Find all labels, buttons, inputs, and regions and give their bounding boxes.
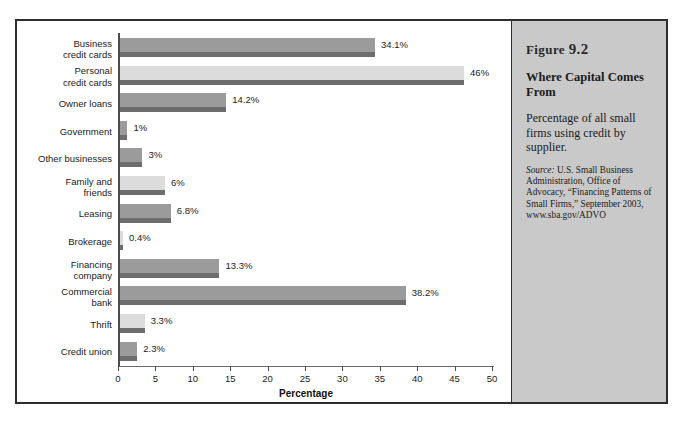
bar-face (120, 66, 464, 80)
category-label: Personal credit cards (20, 65, 112, 87)
bar-row: Business credit cards34.1% (17, 35, 511, 63)
x-axis-tick-label: 50 (487, 373, 498, 384)
bar-face (120, 314, 145, 328)
bar-value-label: 14.2% (232, 94, 259, 105)
bar: 3.3% (120, 314, 145, 335)
x-axis-tick-label: 5 (153, 373, 158, 384)
x-axis-title: Percentage (118, 388, 494, 399)
bar-face (120, 231, 123, 245)
bar-shadow (120, 218, 171, 223)
bar-shadow (120, 52, 375, 57)
x-axis-tick (342, 366, 343, 371)
bar-shadow (120, 107, 226, 112)
bar-value-label: 34.1% (381, 39, 408, 50)
bar-row: Thrift3.3% (17, 311, 511, 339)
bar-value-label: 3% (148, 149, 162, 160)
x-axis-tick (492, 366, 493, 371)
bar: 6.8% (120, 204, 171, 225)
x-axis-tick (305, 366, 306, 371)
bar-value-label: 38.2% (412, 287, 439, 298)
figure-number-label: Figure (526, 42, 565, 57)
bar-face (120, 93, 226, 107)
bar: 3% (120, 148, 142, 169)
bar-row: Government1% (17, 118, 511, 146)
x-axis-tick (455, 366, 456, 371)
category-label: Owner loans (20, 98, 112, 109)
figure-number-value: 9.2 (569, 41, 589, 57)
bar-value-label: 6.8% (177, 205, 199, 216)
bar-shadow (120, 245, 123, 250)
bar-shadow (120, 80, 464, 85)
bar-row: Financing company13.3% (17, 256, 511, 284)
bar-row: Commercial bank38.2% (17, 283, 511, 311)
x-axis-tick (380, 366, 381, 371)
bar: 14.2% (120, 93, 226, 114)
category-label: Brokerage (20, 236, 112, 247)
bar-rows: Business credit cards34.1%Personal credi… (17, 35, 511, 366)
bar: 1% (120, 121, 127, 142)
bar-row: Leasing6.8% (17, 201, 511, 229)
category-label: Business credit cards (20, 38, 112, 60)
bar-row: Personal credit cards46% (17, 63, 511, 91)
bar-face (120, 259, 219, 273)
figure-description: Percentage of all small firms using cred… (526, 111, 652, 155)
figure-source-lead: Source: (526, 165, 555, 175)
bar-value-label: 6% (171, 177, 185, 188)
figure-page: Business credit cards34.1%Personal credi… (0, 0, 682, 421)
bar-value-label: 3.3% (151, 315, 173, 326)
figure-source: Source: U.S. Small Business Administrati… (526, 165, 652, 222)
x-axis-tick (230, 366, 231, 371)
figure-title: Where Capital Comes From (526, 70, 652, 100)
bar-shadow (120, 300, 406, 305)
bar-shadow (120, 328, 145, 333)
x-axis-tick (118, 366, 119, 371)
x-axis-tick-label: 35 (375, 373, 386, 384)
x-axis-tick-label: 25 (300, 373, 311, 384)
x-axis-tick-label: 15 (225, 373, 236, 384)
bar: 13.3% (120, 259, 219, 280)
bar-row: Credit union2.3% (17, 339, 511, 367)
category-label: Commercial bank (20, 286, 112, 308)
bar-value-label: 2.3% (143, 343, 165, 354)
bar-row: Brokerage0.4% (17, 228, 511, 256)
bar: 6% (120, 176, 165, 197)
bar-value-label: 46% (470, 67, 489, 78)
chart-panel: Business credit cards34.1%Personal credi… (17, 21, 511, 402)
bar-face (120, 38, 375, 52)
category-label: Financing company (20, 258, 112, 280)
x-axis-tick-label: 0 (115, 373, 120, 384)
bar-row: Family and friends6% (17, 173, 511, 201)
x-axis-ticks: 05101520253035404550 (118, 366, 494, 406)
figure-number: Figure 9.2 (526, 41, 652, 58)
category-label: Credit union (20, 347, 112, 358)
bar: 0.4% (120, 231, 123, 252)
bar-row: Other businesses3% (17, 145, 511, 173)
bar-value-label: 0.4% (129, 232, 151, 243)
bar-shadow (120, 356, 137, 361)
x-axis-tick (268, 366, 269, 371)
bar-face (120, 148, 142, 162)
x-axis-tick (417, 366, 418, 371)
x-axis-tick-label: 20 (262, 373, 273, 384)
bar-value-label: 1% (133, 122, 147, 133)
x-axis-tick-label: 10 (188, 373, 199, 384)
bar-face (120, 286, 406, 300)
bar-face (120, 121, 127, 135)
bar-face (120, 204, 171, 218)
x-axis-tick-label: 45 (449, 373, 460, 384)
x-axis-tick (155, 366, 156, 371)
bar-shadow (120, 135, 127, 140)
bar: 34.1% (120, 38, 375, 59)
x-axis-tick-label: 30 (337, 373, 348, 384)
bar: 38.2% (120, 286, 406, 307)
bar-value-label: 13.3% (225, 260, 252, 271)
x-axis-tick-label: 40 (412, 373, 423, 384)
bar-shadow (120, 273, 219, 278)
bar-face (120, 342, 137, 356)
bar-face (120, 176, 165, 190)
category-label: Other businesses (20, 154, 112, 165)
plot-area: Business credit cards34.1%Personal credi… (17, 21, 511, 402)
category-label: Government (20, 126, 112, 137)
bar-row: Owner loans14.2% (17, 90, 511, 118)
category-label: Leasing (20, 209, 112, 220)
